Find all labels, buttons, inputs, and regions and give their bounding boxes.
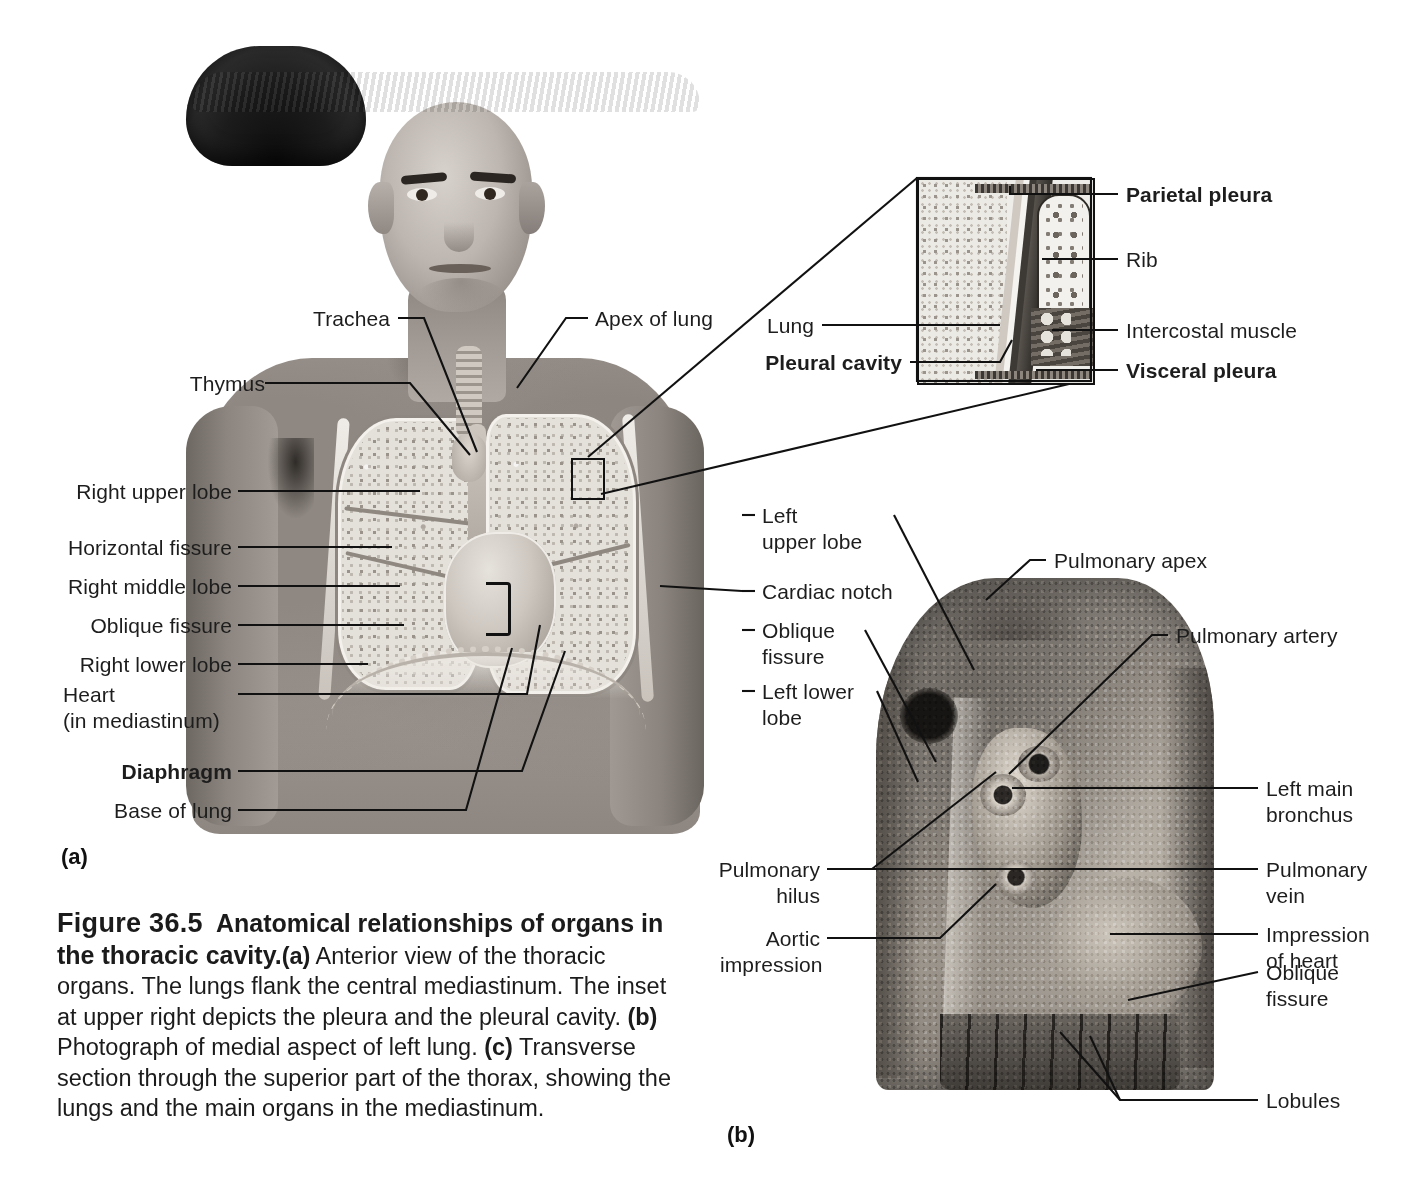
label-trachea: Trachea xyxy=(150,306,390,332)
label-cardiac-notch: Cardiac notch xyxy=(762,579,893,605)
label-left-lower-lobe-2: lobe xyxy=(762,705,802,731)
label-oblique-fissure-a: Oblique fissure xyxy=(0,613,232,639)
cardiac-notch-bracket xyxy=(486,582,511,636)
figure-36-5: Trachea Thymus Apex of lung Right upper … xyxy=(0,0,1428,1195)
caption-part-a-mark: (a) xyxy=(282,943,311,969)
label-right-middle-lobe: Right middle lobe xyxy=(0,574,232,600)
inset-source-box xyxy=(571,458,605,500)
label-left-upper-lobe: Left xyxy=(762,503,797,529)
label-oblique-fissure-b-2: fissure xyxy=(1266,986,1329,1012)
label-diaphragm: Diaphragm xyxy=(0,759,232,785)
label-intercostal-muscle: Intercostal muscle xyxy=(1126,318,1297,344)
panel-mark-b: (b) xyxy=(727,1122,755,1148)
label-heart: Heart xyxy=(63,682,115,708)
label-left-lower-lobe: Left lower xyxy=(762,679,854,705)
label-left-main-bronchus-2: bronchus xyxy=(1266,802,1353,828)
panel-mark-a: (a) xyxy=(61,844,88,870)
label-pulmonary-vein-2: vein xyxy=(1266,883,1305,909)
label-parietal-pleura: Parietal pleura xyxy=(1126,182,1272,208)
label-horizontal-fissure: Horizontal fissure xyxy=(0,535,232,561)
label-left-upper-lobe-2: upper lobe xyxy=(762,529,862,555)
label-rib: Rib xyxy=(1126,247,1158,273)
figure-caption: Figure 36.5 Anatomical relationships of … xyxy=(57,908,679,1124)
anterior-thorax-illustration xyxy=(186,46,706,836)
label-pulmonary-hilus-2: hilus xyxy=(600,883,820,909)
left-lung-photograph xyxy=(876,578,1214,1090)
caption-part-b-mark: (b) xyxy=(627,1004,657,1030)
label-oblique-fissure-a-right-2: fissure xyxy=(762,644,825,670)
pleura-inset-image xyxy=(917,178,1095,385)
caption-figure-number: Figure 36.5 xyxy=(57,908,203,938)
label-pleural-cavity: Pleural cavity xyxy=(640,350,902,376)
label-heart-sub: (in mediastinum) xyxy=(63,708,220,734)
label-oblique-fissure-a-right: Oblique xyxy=(762,618,835,644)
label-impression-of-heart: Impression xyxy=(1266,922,1370,948)
label-right-upper-lobe: Right upper lobe xyxy=(0,479,232,505)
label-pulmonary-vein: Pulmonary xyxy=(1266,857,1367,883)
caption-part-b-text: Photograph of medial aspect of left lung… xyxy=(57,1034,484,1060)
thymus-graphic xyxy=(452,434,486,482)
label-lobules: Lobules xyxy=(1266,1088,1340,1114)
label-left-main-bronchus: Left main xyxy=(1266,776,1353,802)
label-oblique-fissure-b: Oblique xyxy=(1266,960,1339,986)
label-thymus: Thymus xyxy=(20,371,265,397)
caption-part-c-mark: (c) xyxy=(484,1034,513,1060)
label-base-of-lung: Base of lung xyxy=(0,798,232,824)
label-pulmonary-artery: Pulmonary artery xyxy=(1176,623,1338,649)
label-pulmonary-hilus: Pulmonary xyxy=(600,857,820,883)
label-aortic-impression-2: impression xyxy=(720,952,823,978)
label-visceral-pleura: Visceral pleura xyxy=(1126,358,1277,384)
label-right-lower-lobe: Right lower lobe xyxy=(0,652,232,678)
label-pulmonary-apex: Pulmonary apex xyxy=(1054,548,1207,574)
label-inset-lung: Lung xyxy=(690,313,814,339)
